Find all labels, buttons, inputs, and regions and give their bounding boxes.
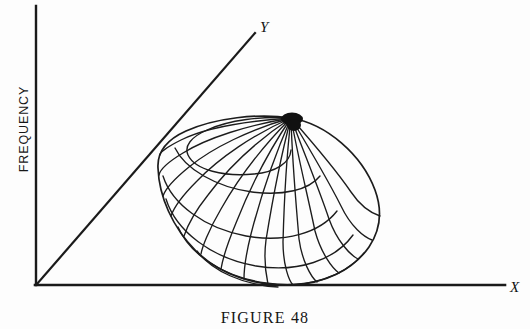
apex-convergence-blot-lower [287, 119, 301, 131]
shell-envelope-group [158, 113, 380, 288]
shell-rib-15 [291, 118, 380, 216]
x-axis-label: X [509, 279, 520, 295]
shell-rib-3 [163, 118, 291, 196]
shell-rib-9 [265, 118, 291, 284]
y-axis-label: Y [260, 19, 270, 35]
shell-arc-3 [163, 176, 337, 238]
axis-group [35, 6, 505, 285]
frequency-axis-label: FREQUENCY [17, 59, 31, 199]
shell-rib-12 [291, 118, 339, 273]
figure-caption: FIGURE 48 [0, 309, 530, 327]
figure-drawing: Y X [0, 0, 530, 329]
figure-container: Y X FREQUENCY FIGURE 48 [0, 0, 530, 329]
